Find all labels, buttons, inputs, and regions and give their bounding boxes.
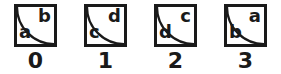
- option-number: 2: [168, 50, 183, 72]
- labeled-squares-figure: b a 0 d c 1 c d 2 a b: [0, 0, 281, 74]
- option-cell-0: b a 0: [1, 4, 70, 74]
- option-cell-3: a b 3: [211, 4, 280, 74]
- option-number: 3: [238, 50, 253, 72]
- letter-bottom-left: d: [159, 23, 172, 41]
- letter-top-right: d: [108, 7, 121, 25]
- letter-bottom-left: a: [19, 23, 31, 41]
- option-number: 0: [28, 50, 43, 72]
- letter-top-right: c: [180, 7, 191, 25]
- letter-bottom-left: c: [89, 23, 100, 41]
- square-card-1: d c: [84, 4, 127, 47]
- letter-top-right: b: [38, 7, 51, 25]
- letter-top-right: a: [249, 7, 261, 25]
- option-cell-2: c d 2: [141, 4, 210, 74]
- square-card-3: a b: [224, 4, 267, 47]
- option-number: 1: [98, 50, 113, 72]
- square-card-2: c d: [154, 4, 197, 47]
- option-cell-1: d c 1: [71, 4, 140, 74]
- square-card-0: b a: [14, 4, 57, 47]
- letter-bottom-left: b: [229, 23, 242, 41]
